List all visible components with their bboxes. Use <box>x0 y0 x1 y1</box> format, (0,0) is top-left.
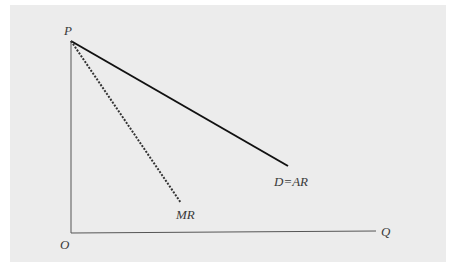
price-axis-label: P <box>63 23 72 38</box>
demand-ar-line <box>71 41 288 166</box>
origin-label: O <box>60 237 70 252</box>
marginal-revenue-line <box>71 41 181 203</box>
quantity-axis-label: Q <box>381 224 391 239</box>
demand-mr-diagram: P O Q D=AR MR <box>0 0 454 264</box>
demand-ar-label: D=AR <box>273 174 308 189</box>
mr-label: MR <box>175 207 195 222</box>
quantity-axis-line <box>71 231 376 233</box>
